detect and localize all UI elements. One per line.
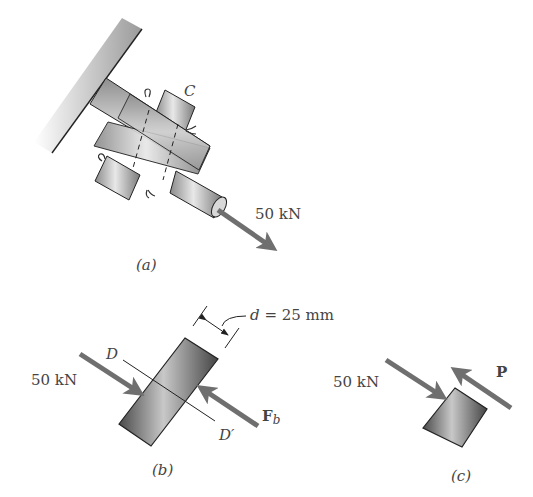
diameter-label: d = 25 mm <box>250 306 334 324</box>
figure-label-a: (a) <box>136 256 157 274</box>
shear-connection-diagram: C 50 kN (a) 50 kN D D′ Fb d = 25 mm (b) <box>0 0 533 497</box>
force-label-p: P <box>496 363 507 381</box>
pin-segment <box>423 388 487 447</box>
figure-c: 50 kN P (c) <box>333 360 511 485</box>
figure-label-c: (c) <box>451 467 471 485</box>
load-label-a: 50 kN <box>255 205 301 223</box>
section-label-d: D <box>105 345 118 363</box>
bearing-force-arrow <box>204 390 258 426</box>
connection-label-c: C <box>184 82 196 100</box>
figure-b: 50 kN D D′ Fb d = 25 mm (b) <box>31 306 334 479</box>
diameter-dimension <box>193 306 246 348</box>
clevis-lower-block <box>95 156 140 200</box>
load-arrow-c <box>386 360 440 395</box>
load-label-c: 50 kN <box>333 373 379 391</box>
figure-a: C 50 kN (a) <box>34 18 301 274</box>
figure-label-b: (b) <box>152 461 173 479</box>
load-label-b: 50 kN <box>31 371 77 389</box>
section-label-d-prime: D′ <box>218 426 235 444</box>
bearing-force-label: Fb <box>262 407 280 427</box>
